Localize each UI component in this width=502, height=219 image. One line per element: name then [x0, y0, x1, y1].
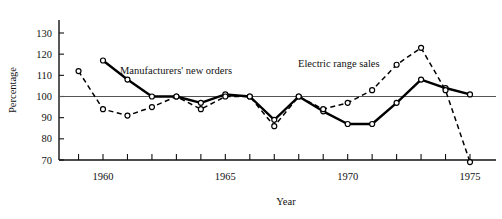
data-point-marker	[149, 94, 154, 99]
x-tick-label: 1965	[215, 171, 236, 182]
y-tick-label: 100	[36, 91, 52, 102]
data-point-marker	[296, 94, 301, 99]
data-point-marker	[223, 94, 228, 99]
y-tick-label: 70	[42, 155, 53, 166]
data-point-marker	[345, 122, 350, 127]
data-point-marker	[394, 100, 399, 105]
x-axis-title: Year	[276, 196, 296, 207]
data-point-marker	[125, 77, 130, 82]
data-point-marker	[76, 69, 81, 74]
data-point-marker	[198, 107, 203, 112]
y-tick-label: 130	[36, 28, 52, 39]
data-point-marker	[101, 107, 106, 112]
data-point-marker	[198, 100, 203, 105]
data-point-marker	[101, 58, 106, 63]
data-point-marker	[321, 107, 326, 112]
data-point-marker	[394, 62, 399, 67]
y-axis-title: Percentage	[7, 67, 18, 113]
data-point-marker	[272, 124, 277, 129]
data-point-marker	[370, 88, 375, 93]
data-point-marker	[174, 94, 179, 99]
figure-container: 7080901001101201301960196519701975Percen…	[0, 0, 502, 219]
y-tick-label: 80	[42, 133, 53, 144]
data-point-marker	[345, 100, 350, 105]
x-tick-label: 1970	[337, 171, 358, 182]
data-point-marker	[468, 92, 473, 97]
x-tick-label: 1975	[460, 171, 481, 182]
data-point-marker	[443, 88, 448, 93]
y-tick-label: 120	[36, 49, 52, 60]
annotation-manufacturers-new-orders: Manufacturers' new orders	[120, 65, 232, 76]
y-tick-label: 90	[42, 112, 53, 123]
line-chart: 7080901001101201301960196519701975Percen…	[0, 0, 502, 219]
y-tick-label: 110	[37, 70, 52, 81]
data-point-marker	[272, 117, 277, 122]
data-point-marker	[247, 94, 252, 99]
data-point-marker	[419, 77, 424, 82]
data-point-marker	[125, 113, 130, 118]
annotation-electric-range-sales: Electric range sales	[298, 58, 380, 69]
data-point-marker	[149, 105, 154, 110]
data-point-marker	[419, 45, 424, 50]
x-tick-label: 1960	[93, 171, 114, 182]
data-point-marker	[370, 122, 375, 127]
data-point-marker	[468, 160, 473, 165]
